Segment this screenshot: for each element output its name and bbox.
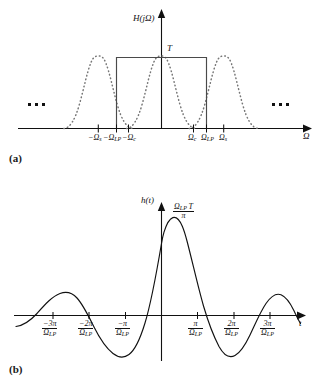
panel-a-tick-label-neg-omega-lp: −ΩLP <box>103 134 121 142</box>
panel-b-plot <box>0 186 323 376</box>
tick-a-4-sub: LP <box>207 136 214 142</box>
panel-b-tick-label-3pi: 3π ΩLP <box>260 320 275 337</box>
peak-label-numerator: ΩLP T <box>173 203 194 211</box>
panel-b-tick-label-neg-pi: −π ΩLP <box>115 320 130 337</box>
panel-b-caption: (b) <box>9 363 22 375</box>
tick-a-2-main: −Ω <box>122 133 133 142</box>
panel-b-y-axis <box>158 202 165 361</box>
panel-b-y-axis-title-text: h(t) <box>141 195 154 205</box>
panel-a-x-axis-title-text: Ω <box>303 131 310 141</box>
tick-a-5-sub: s <box>225 136 227 142</box>
tick-b-0-den-sub: LP <box>49 331 56 337</box>
panel-a-y-axis-title: H(jΩ) <box>133 13 155 23</box>
panel-a-x-axis <box>18 125 312 133</box>
panel-a-plateau-label: T <box>167 43 172 53</box>
panel-b-tick-label-neg-2pi: −2π ΩLP <box>78 320 93 337</box>
panel-a-tick-label-omega-lp: ΩLP <box>201 134 214 142</box>
panel-a-ellipsis-left <box>28 103 45 106</box>
tick-b-0-den: ΩLP <box>42 328 57 337</box>
tick-b-5-den-sub: LP <box>267 331 274 337</box>
panel-b-caption-text: (b) <box>9 363 22 375</box>
tick-b-4-num: 2π <box>224 320 239 328</box>
panel-a-tick-label-neg-omega-c: −Ωc <box>122 134 136 142</box>
panel-a-tick-label-neg-omega-s: −Ωs <box>88 134 102 142</box>
panel-a-caption-text: (a) <box>9 152 22 164</box>
panel-b-tick-label-neg-3pi: −3π ΩLP <box>42 320 57 337</box>
figure-container: H(jΩ) Ω T −Ωs −ΩLP −Ωc Ωc ΩLP Ωs (a) <box>0 0 323 384</box>
peak-label-denominator: π <box>173 211 194 220</box>
tick-b-1-num: −2π <box>78 320 93 328</box>
tick-a-0-main: −Ω <box>88 133 99 142</box>
tick-b-5-num: 3π <box>260 320 275 328</box>
panel-a-x-axis-title: Ω <box>303 131 310 141</box>
tick-a-3-sub: c <box>194 136 197 142</box>
tick-a-2-sub: c <box>133 136 136 142</box>
panel-a-plot <box>0 0 323 175</box>
panel-b-peak-amplitude-label: ΩLP T π <box>173 203 194 220</box>
panel-a-y-axis <box>158 9 165 129</box>
tick-b-3-den-sub: LP <box>195 331 202 337</box>
panel-b-tick-label-2pi: 2π ΩLP <box>224 320 239 337</box>
tick-a-1-sub: LP <box>114 136 121 142</box>
spectrum-replica-right <box>189 56 258 129</box>
tick-b-3-num: π <box>188 320 203 328</box>
panel-a-ellipsis-right <box>272 103 289 106</box>
peak-num-sub: LP <box>180 205 187 211</box>
panel-b-tick-label-pi: π ΩLP <box>188 320 203 337</box>
panel-b-y-axis-title: h(t) <box>141 195 154 205</box>
tick-b-1-den-sub: LP <box>85 331 92 337</box>
tick-b-5-den: ΩLP <box>260 328 275 337</box>
panel-a-caption: (a) <box>9 152 22 164</box>
tick-b-2-den: ΩLP <box>115 328 130 337</box>
tick-a-0-sub: s <box>99 136 101 142</box>
panel-a-y-axis-title-text: H(jΩ) <box>133 13 155 23</box>
tick-b-1-den: ΩLP <box>78 328 93 337</box>
tick-b-0-num: −3π <box>42 320 57 328</box>
panel-a-plateau-label-text: T <box>167 43 172 53</box>
panel-a-tick-label-omega-s: Ωs <box>219 134 227 142</box>
panel-b-x-axis-title-text: t <box>299 318 302 328</box>
tick-b-4-den: ΩLP <box>224 328 239 337</box>
tick-b-2-num: −π <box>115 320 130 328</box>
peak-num-tail: T <box>188 202 192 211</box>
spectrum-replica-left <box>64 56 133 129</box>
tick-a-1-main: −Ω <box>103 133 114 142</box>
panel-a-tick-label-omega-c: Ωc <box>188 134 196 142</box>
tick-b-4-den-sub: LP <box>231 331 238 337</box>
tick-b-3-den: ΩLP <box>188 328 203 337</box>
panel-b-x-axis-title: t <box>299 318 302 328</box>
tick-b-2-den-sub: LP <box>122 331 129 337</box>
